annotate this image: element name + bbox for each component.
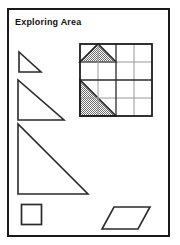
worksheet-page: Exploring Area <box>0 0 180 245</box>
area-grid <box>78 42 156 120</box>
triangle-medium <box>16 78 68 124</box>
triangle-large-outline <box>18 124 88 194</box>
page-title: Exploring Area <box>15 17 81 27</box>
square <box>19 202 45 228</box>
triangle-small-outline <box>19 52 41 72</box>
triangle-small <box>17 50 45 76</box>
parallelogram-outline <box>102 207 150 229</box>
square-outline <box>22 205 42 225</box>
triangle-large <box>16 122 92 198</box>
parallelogram <box>100 205 154 233</box>
triangle-medium-outline <box>18 80 64 120</box>
